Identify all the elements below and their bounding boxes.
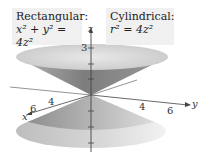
z-tick-3: 3 <box>81 42 87 53</box>
rectangular-equation-label: Rectangular: x² + y² = 4z² <box>12 8 82 45</box>
cylindrical-equation-label: Cylindrical: r² = 4z² <box>106 8 174 45</box>
x-tick-4: 4 <box>48 96 54 107</box>
upper-nappe <box>16 44 168 95</box>
z-axis-label: z <box>88 24 93 34</box>
y-arrow-icon <box>185 102 191 107</box>
rectangular-equation: x² + y² = 4z² <box>16 23 78 49</box>
cylindrical-title: Cylindrical: <box>110 10 170 23</box>
rectangular-title: Rectangular: <box>16 10 78 23</box>
x-axis-label: x <box>22 111 28 122</box>
cylindrical-equation: r² = 4z² <box>110 23 170 36</box>
y-tick-4: 4 <box>139 101 145 112</box>
y-axis-label: y <box>192 98 198 109</box>
x-tick-6: 6 <box>30 103 36 114</box>
y-tick-6: 6 <box>167 105 173 116</box>
